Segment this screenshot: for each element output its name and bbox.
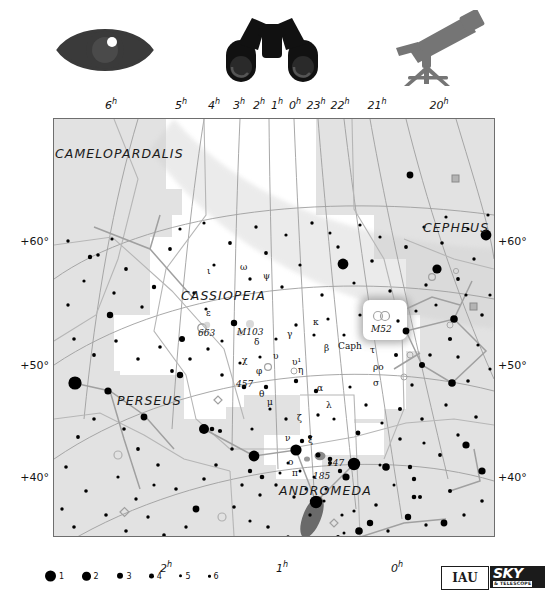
ra-tick-value: 20 — [429, 99, 443, 112]
star-label: μ — [267, 397, 273, 407]
ra-tick-label-top: 1h — [271, 97, 283, 112]
ra-tick-value: 0 — [391, 562, 398, 575]
star-label: ρο — [373, 362, 384, 372]
star-label: γ — [287, 329, 292, 339]
ra-tick-unit: h — [296, 97, 301, 106]
dec-tick-label-right: +40° — [498, 471, 527, 484]
star-label: ο — [288, 457, 293, 467]
star-label: π — [292, 468, 298, 478]
magnitude-number: 5 — [185, 572, 190, 581]
ra-tick-label-top: 6h — [105, 97, 117, 112]
ra-tick-unit: h — [182, 97, 187, 106]
star-label: Caph — [338, 341, 362, 351]
ra-tick-unit: h — [381, 97, 386, 106]
magnitude-number: 2 — [94, 572, 99, 581]
ra-tick-value: 3 — [233, 99, 240, 112]
ra-tick-unit: h — [443, 97, 448, 106]
dso-label: 185 — [313, 471, 330, 481]
ra-tick-label-top: 23h — [306, 97, 325, 112]
ra-tick-unit: h — [398, 560, 403, 569]
magnitude-dot — [208, 575, 211, 578]
ra-tick-value: 2 — [253, 99, 260, 112]
dso-label: 457 — [236, 379, 253, 389]
ra-tick-value: 22 — [330, 99, 344, 112]
ra-tick-value: 23 — [306, 99, 320, 112]
star-label: ε — [206, 308, 211, 318]
magnitude-legend: 123456 — [45, 565, 275, 591]
dec-tick-label-left: +40° — [5, 471, 49, 484]
star-label: ω — [240, 262, 247, 272]
star-label: σ — [373, 378, 379, 388]
star-label: χ — [242, 355, 247, 365]
sky-and-telescope-logo: SKY & TELESCOPE — [490, 566, 545, 588]
ra-tick-label-top: 0h — [289, 97, 301, 112]
magnitude-number: 3 — [126, 572, 131, 581]
ra-tick-label-top: 2h — [253, 97, 265, 112]
dec-tick-label-right: +60° — [498, 235, 527, 248]
star-label: β — [324, 343, 329, 353]
star-chart-page: 6h5h4h3h2h1h0h23h22h21h20h +60°+50°+40° … — [0, 0, 545, 612]
star-label: ν — [285, 433, 290, 443]
telescope-logo-text: & TELESCOPE — [493, 581, 532, 587]
telescope-icon — [388, 10, 493, 88]
star-label: η — [298, 365, 303, 375]
magnitude-number: 4 — [157, 572, 162, 581]
ra-tick-value: 1 — [271, 99, 278, 112]
constellation-name: ANDROMEDA — [279, 483, 372, 498]
magnitude-dot — [45, 571, 56, 582]
dec-tick-label-left: +50° — [5, 359, 49, 372]
dso-label: M103 — [237, 327, 263, 337]
star-label: δ — [254, 337, 259, 347]
ra-tick-value: 1 — [276, 562, 283, 575]
magnitude-dot — [82, 572, 91, 581]
star-label: ψ — [263, 271, 270, 281]
magnitude-number: 1 — [59, 572, 64, 581]
dso-label: M52 — [371, 324, 392, 334]
ra-tick-value: 4 — [208, 99, 215, 112]
ra-tick-value: 21 — [367, 99, 381, 112]
ra-tick-unit: h — [260, 97, 265, 106]
star-label: ι — [207, 266, 211, 276]
binoculars-icon — [218, 10, 328, 88]
star-label: τ — [370, 345, 375, 355]
sky-chart[interactable]: CAMELOPARDALISCASSIOPEIACEPHEUSPERSEUSAN… — [53, 118, 495, 537]
ra-tick-unit: h — [278, 97, 283, 106]
iau-logo: IAU — [441, 566, 489, 590]
ra-tick-label-bottom: 0h — [391, 560, 403, 575]
star-label: λ — [326, 400, 332, 410]
star-label: α — [317, 383, 323, 393]
observing-method-icons — [0, 0, 545, 95]
ra-tick-unit: h — [240, 97, 245, 106]
star-label: θ — [259, 389, 264, 399]
ra-tick-label-bottom: 1h — [276, 560, 288, 575]
ra-tick-value: 6 — [105, 99, 112, 112]
magnitude-number: 6 — [214, 572, 219, 581]
magnitude-dot — [149, 574, 154, 579]
ra-tick-label-top: 5h — [175, 97, 187, 112]
constellation-name: CEPHEUS — [423, 220, 489, 235]
star-label: ξ — [308, 435, 313, 445]
eye-icon — [50, 10, 160, 88]
dso-label: 147 — [327, 458, 344, 468]
ra-tick-unit: h — [215, 97, 220, 106]
magnitude-dot — [179, 574, 182, 577]
constellation-name: CAMELOPARDALIS — [55, 146, 184, 161]
star-label: υ — [273, 351, 278, 361]
ra-tick-label-top: 22h — [330, 97, 349, 112]
ra-tick-label-top: 20h — [429, 97, 448, 112]
constellation-name: CASSIOPEIA — [181, 288, 266, 303]
iau-logo-text: IAU — [452, 572, 477, 584]
ra-tick-label-top: 21h — [367, 97, 386, 112]
ra-tick-value: 5 — [175, 99, 182, 112]
star-label: φ — [256, 366, 262, 376]
sky-logo-text: SKY — [493, 566, 523, 580]
dec-tick-label-left: +60° — [5, 235, 49, 248]
dso-label: 663 — [198, 328, 215, 338]
star-label: ζ — [297, 413, 302, 423]
ra-tick-unit: h — [283, 560, 288, 569]
ra-tick-value: 0 — [289, 99, 296, 112]
magnitude-dot — [117, 573, 123, 579]
sky-chart-canvas — [54, 119, 494, 536]
dec-tick-label-right: +50° — [498, 359, 527, 372]
ra-tick-unit: h — [344, 97, 349, 106]
